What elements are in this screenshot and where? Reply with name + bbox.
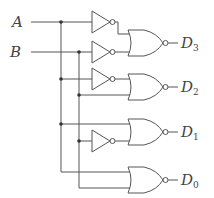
not-gate-a — [92, 11, 130, 34]
svg-text:D: D — [180, 171, 193, 189]
svg-text:D: D — [180, 78, 193, 96]
output-label-d3: D 3 — [180, 34, 199, 53]
not-gate-a-2 — [92, 68, 130, 90]
nor-gate-d2 — [128, 74, 178, 100]
decoder-circuit: A B — [0, 0, 214, 198]
not-gate-b — [92, 41, 130, 63]
output-label-d1: D 1 — [180, 123, 199, 142]
junction-dot — [77, 50, 81, 54]
svg-text:D: D — [180, 34, 193, 52]
output-label-d0: D 0 — [180, 171, 199, 190]
wire-a — [31, 22, 130, 172]
output-label-d2: D 2 — [180, 78, 199, 97]
not-gate-b-2 — [92, 130, 130, 152]
svg-text:1: 1 — [193, 132, 199, 142]
junction-dot — [59, 77, 63, 81]
wire-b — [31, 52, 130, 188]
junction-dot — [77, 139, 81, 143]
junction-dot — [77, 93, 81, 97]
svg-text:D: D — [180, 123, 193, 141]
svg-text:0: 0 — [193, 180, 199, 190]
nor-gate-d1 — [128, 119, 178, 145]
nor-gate-d3 — [128, 30, 178, 56]
junction-dot — [59, 122, 63, 126]
nor-gate-d0 — [128, 167, 178, 193]
input-label-b: B — [9, 43, 21, 61]
svg-text:2: 2 — [193, 87, 199, 97]
input-label-a: A — [10, 13, 23, 31]
svg-text:3: 3 — [193, 43, 199, 53]
junction-dot — [59, 20, 63, 24]
